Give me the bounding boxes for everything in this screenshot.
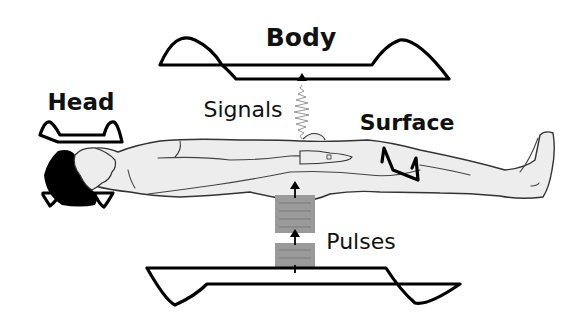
label-pulses: Pulses [326,229,395,254]
mri-coil-diagram: Body Signals Head Surface [0,0,585,332]
signals-wave [294,73,309,139]
signal-arrow-icon [297,73,307,81]
label-surface: Surface [360,110,455,135]
label-signals: Signals [203,97,282,122]
label-head: Head [48,89,115,115]
body-coil-bottom [147,268,460,305]
label-body: Body [266,23,336,52]
